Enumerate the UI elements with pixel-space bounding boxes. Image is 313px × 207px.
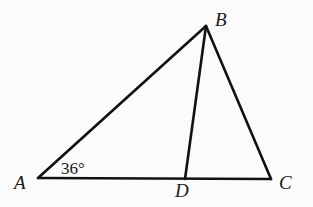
vertex-label-a: A — [12, 172, 26, 193]
background — [0, 0, 313, 207]
vertex-label-c: C — [279, 172, 292, 193]
angle-label-a: 36° — [61, 159, 85, 178]
triangle-diagram: A B C D 36° — [0, 0, 313, 207]
vertex-label-b: B — [215, 9, 227, 30]
segment-ac — [38, 178, 271, 179]
vertex-label-d: D — [174, 180, 189, 201]
